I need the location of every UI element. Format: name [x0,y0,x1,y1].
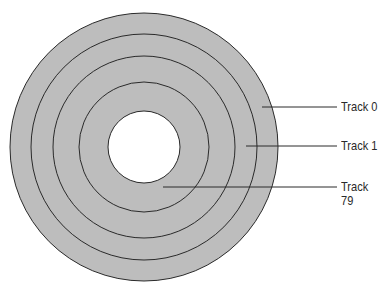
label-track-79: Track 79 [341,180,381,208]
label-track-1: Track 1 [341,139,377,153]
disk-diagram [0,0,388,287]
center-hole [108,111,180,183]
label-track-0: Track 0 [341,100,377,114]
